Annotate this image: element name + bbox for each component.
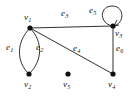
- edge-label-e6: e6: [116, 44, 123, 53]
- vertex-label-v1: v1: [24, 13, 31, 22]
- edge-label-e4: e4: [73, 44, 80, 53]
- edge-e3-path: [30, 26, 113, 28]
- edge-label-e5: e5: [89, 6, 96, 15]
- vertex-label-v3: v3: [115, 29, 122, 38]
- edge-e5-self-loop-path: [102, 6, 122, 26]
- vertex-v2-dot: [26, 71, 31, 76]
- vertex-v4-dot: [110, 71, 115, 76]
- vertex-v1-dot: [27, 25, 32, 30]
- graph-figure: v1 v2 v3 v4 v5 e1 e2 e3 e4 e5 e6: [0, 0, 134, 96]
- edge-label-e1: e1: [6, 43, 13, 52]
- vertex-label-v4: v4: [108, 80, 115, 89]
- edge-label-e3: e3: [61, 9, 68, 18]
- edge-label-e2: e2: [36, 43, 43, 52]
- vertex-label-v2: v2: [24, 80, 31, 89]
- vertex-v5-dot: [65, 71, 70, 76]
- edge-e1-path: [19, 28, 30, 74]
- vertex-label-v5: v5: [63, 80, 70, 89]
